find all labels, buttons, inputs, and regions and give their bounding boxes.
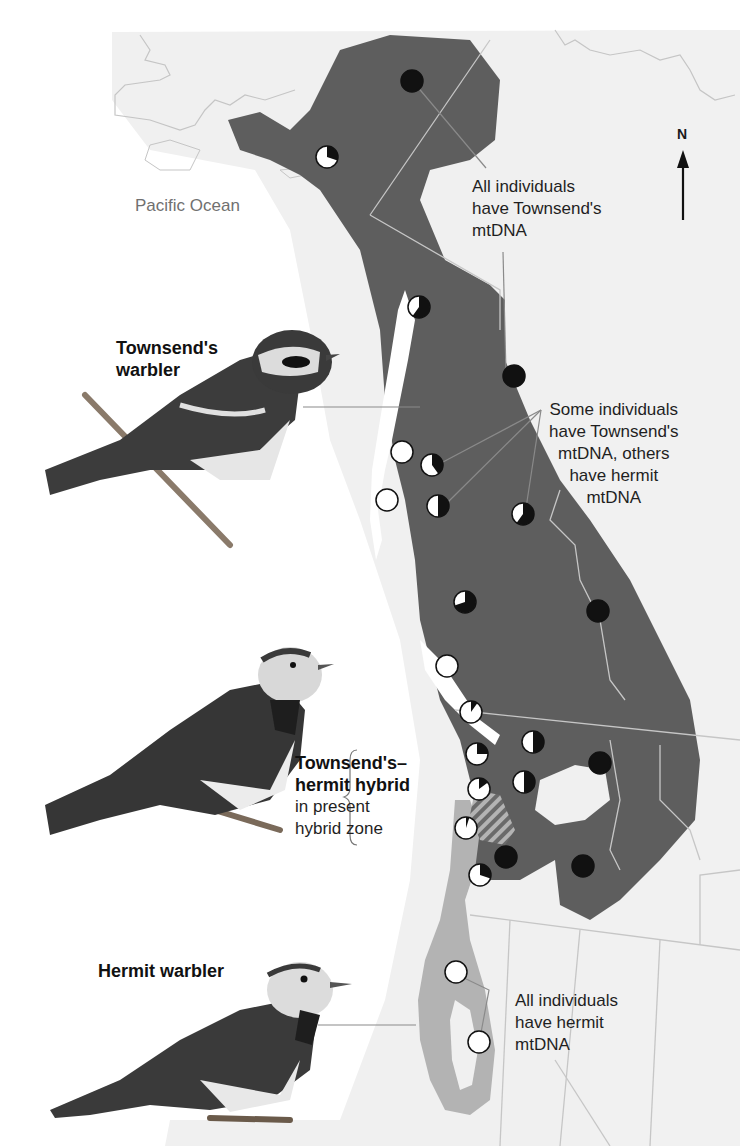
sample-site-marker <box>454 591 476 613</box>
sample-site-marker <box>503 365 525 387</box>
sample-site-marker <box>427 495 449 517</box>
sample-site-marker <box>316 146 338 168</box>
sample-site-marker <box>468 1031 490 1053</box>
sample-site-marker <box>468 778 490 800</box>
sample-site-marker <box>466 743 488 765</box>
annotation-all-hermit: All individuals have hermit mtDNA <box>515 990 618 1056</box>
sample-site-marker <box>589 752 611 774</box>
sample-site-marker <box>436 655 458 677</box>
sample-site-marker <box>455 817 477 839</box>
sample-site-marker <box>376 489 398 511</box>
sample-site-marker <box>572 855 594 877</box>
hermit-warbler-illustration <box>50 962 352 1120</box>
sample-site-marker <box>401 70 423 92</box>
sample-site-marker <box>391 441 413 463</box>
sample-site-marker <box>512 503 534 525</box>
hybrid-warbler-illustration <box>45 647 334 835</box>
pacific-ocean-label: Pacific Ocean <box>135 195 240 217</box>
sample-site-marker <box>522 731 544 753</box>
sample-site-marker <box>445 961 467 983</box>
annotation-all-townsend: All individuals have Townsend's mtDNA <box>472 176 602 242</box>
hermit-warbler-label: Hermit warbler <box>98 960 224 982</box>
sample-site-marker <box>460 701 482 723</box>
figure: Pacific Ocean N All individuals have Tow… <box>0 0 740 1146</box>
sample-site-marker <box>495 846 517 868</box>
sample-site-marker <box>587 600 609 622</box>
hybrid-warbler-label: Townsend's– hermit hybrid in present hyb… <box>295 752 410 840</box>
north-label: N <box>677 126 687 142</box>
sample-site-marker <box>469 864 491 886</box>
sample-site-marker <box>421 454 443 476</box>
sample-site-marker <box>408 296 430 318</box>
annotation-mixed: Some individuals have Townsend's mtDNA, … <box>549 399 679 509</box>
sample-site-marker <box>513 771 535 793</box>
townsends-warbler-label: Townsend's warbler <box>116 337 218 381</box>
